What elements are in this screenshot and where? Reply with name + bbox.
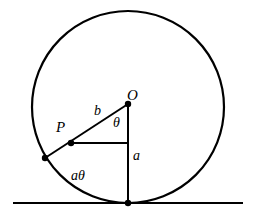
point-p-dot (68, 140, 74, 146)
label-point-p: P (56, 120, 65, 135)
label-center-o: O (127, 88, 138, 103)
label-angle-theta: θ (113, 116, 120, 130)
tangent-point-dot (125, 200, 131, 206)
label-radius-a: a (133, 149, 140, 163)
label-segment-b: b (94, 104, 101, 118)
cycloid-diagram: O P b θ a aθ (0, 0, 256, 219)
label-arc-length-a-theta: aθ (71, 169, 85, 183)
geometry-canvas (0, 0, 256, 219)
circle-contact-left-dot (42, 155, 48, 161)
